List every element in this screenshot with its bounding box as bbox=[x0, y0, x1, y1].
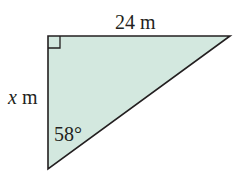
right-triangle bbox=[48, 36, 230, 169]
left-side-label: x m bbox=[7, 86, 38, 108]
angle-label: 58° bbox=[54, 123, 82, 145]
top-side-label: 24 m bbox=[115, 11, 156, 33]
triangle-diagram: 24 m x m 58° bbox=[0, 0, 234, 177]
variable-x: x bbox=[7, 86, 17, 108]
unit-m: m bbox=[17, 86, 38, 108]
